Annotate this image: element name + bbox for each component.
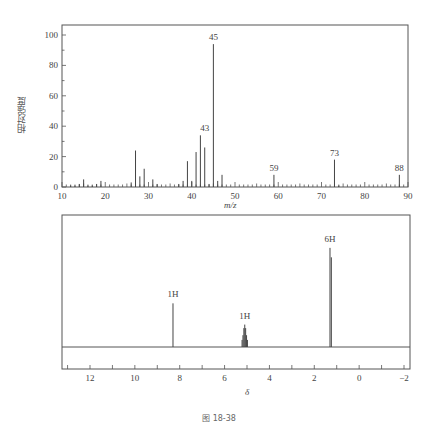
x-tick-label: 90 — [404, 191, 414, 201]
ms-peak-label: 45 — [209, 32, 219, 42]
nmr-integration-label: 6H — [324, 234, 336, 244]
x-tick-label: 10 — [58, 191, 68, 201]
x-tick-label: 60 — [274, 191, 284, 201]
x-tick-label: 6 — [222, 373, 227, 383]
x-tick-label: 40 — [187, 191, 197, 201]
ms-plot-frame — [62, 25, 408, 187]
x-tick-label: 80 — [360, 191, 370, 201]
y-tick-label: 40 — [49, 121, 59, 131]
nmr-integration-label: 1H — [167, 289, 179, 299]
x-tick-label: 70 — [317, 191, 327, 201]
ms-x-axis-label: m/z — [224, 200, 237, 210]
x-tick-label: 4 — [267, 373, 272, 383]
y-tick-label: 20 — [49, 152, 59, 162]
y-tick-label: 80 — [49, 60, 59, 70]
ms-peak-label: 88 — [395, 163, 405, 173]
nmr-plot-frame — [62, 215, 410, 369]
nmr-spectrum-chart: 121086420−2δ1H1H6H — [62, 215, 410, 397]
y-tick-label: 100 — [45, 30, 59, 40]
x-tick-label: 30 — [144, 191, 154, 201]
mass-spectrum-chart: 020406080100102030405060708090m/z4345597… — [45, 25, 414, 210]
nmr-x-axis-label: δ — [245, 387, 250, 397]
x-tick-label: 10 — [130, 373, 140, 383]
x-tick-label: 0 — [357, 373, 362, 383]
ms-y-axis-label: 相对强度 — [14, 85, 36, 145]
ms-peak-label: 59 — [269, 163, 279, 173]
nmr-integration-label: 1H — [239, 311, 251, 321]
y-tick-label: 60 — [49, 91, 59, 101]
x-tick-label: 12 — [86, 373, 95, 383]
figure-canvas: 020406080100102030405060708090m/z4345597… — [0, 0, 438, 441]
ms-peak-label: 43 — [200, 123, 210, 133]
ms-peak-label: 73 — [330, 148, 340, 158]
x-tick-label: 2 — [312, 373, 317, 383]
figure-caption: 图 18-38 — [0, 412, 438, 423]
x-tick-label: −2 — [399, 373, 409, 383]
x-tick-label: 8 — [177, 373, 182, 383]
x-tick-label: 20 — [101, 191, 111, 201]
